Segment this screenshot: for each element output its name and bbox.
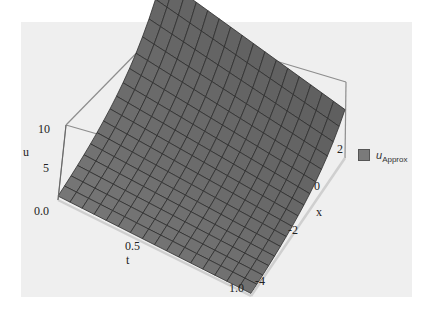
t-tick-0: 0.0	[34, 204, 49, 218]
t-tick-05: 0.5	[125, 239, 140, 253]
legend: uApprox	[358, 149, 407, 161]
x-tick-m4: -4	[255, 274, 265, 288]
x-tick-m2: -2	[288, 223, 298, 237]
t-axis-label: t	[126, 253, 130, 267]
x-axis-label: x	[316, 205, 322, 219]
legend-swatch	[358, 149, 370, 161]
x-tick-2: 2	[337, 142, 343, 156]
legend-label: uApprox	[376, 149, 407, 161]
t-tick-1: 1.0	[229, 281, 244, 295]
u-axis-label: u	[23, 145, 29, 159]
surface-mesh	[58, 0, 345, 293]
u-tick-10: 10	[38, 122, 50, 136]
u-tick-5: 5	[43, 161, 49, 175]
x-tick-0: 0	[314, 179, 320, 193]
